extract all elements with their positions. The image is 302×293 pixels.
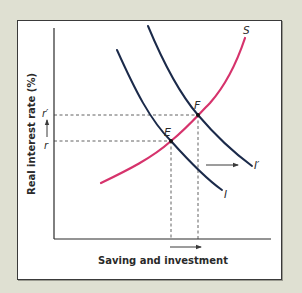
x-axis-title: Saving and investment: [98, 255, 228, 266]
label-f: F: [194, 99, 201, 112]
investment-curve-i-prime: [148, 26, 252, 166]
saving-curve-s: [101, 38, 245, 183]
tick-r: r: [44, 140, 49, 151]
chart-canvas: S I I′ E F r′ r Saving and investment Re…: [0, 0, 302, 293]
point-f-marker: [196, 113, 200, 117]
label-e: E: [164, 126, 171, 139]
tick-r-prime: r′: [42, 108, 49, 119]
guide-lines: [54, 115, 198, 239]
label-s: S: [243, 24, 250, 36]
point-e-marker: [169, 139, 173, 143]
label-i: I: [224, 188, 227, 200]
label-i-prime: I′: [254, 159, 260, 171]
y-axis-title: Real interest rate (%): [26, 73, 37, 195]
